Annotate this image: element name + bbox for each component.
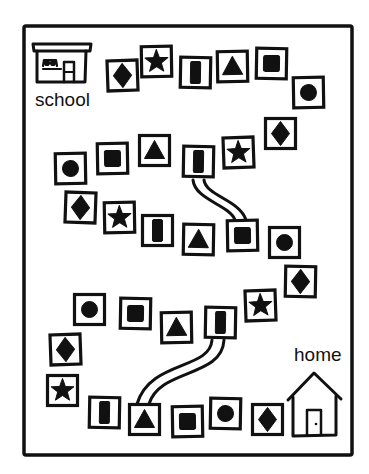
school-building-icon — [33, 44, 91, 82]
rect-icon — [99, 401, 109, 423]
home-label: home — [294, 344, 342, 366]
board-space-17[interactable] — [227, 220, 258, 251]
board-space-14[interactable] — [104, 202, 135, 233]
board-space-11[interactable] — [97, 143, 128, 174]
square-icon — [104, 150, 120, 166]
shortcut-path-2 — [137, 340, 212, 404]
board-space-16[interactable] — [183, 224, 214, 255]
circle-icon — [217, 405, 233, 421]
board-space-23[interactable] — [120, 298, 151, 329]
board-space-7[interactable] — [266, 119, 296, 149]
square-icon — [127, 305, 143, 321]
circle-icon — [300, 84, 316, 100]
shortcut-path-2 — [149, 340, 224, 404]
board-space-20[interactable] — [245, 290, 276, 321]
board-space-26[interactable] — [48, 376, 78, 406]
circle-icon — [82, 302, 98, 318]
rect-icon — [153, 220, 163, 242]
board-space-15[interactable] — [143, 216, 173, 246]
square-icon — [263, 55, 279, 71]
circle-icon — [62, 160, 78, 176]
board-space-4[interactable] — [217, 51, 248, 82]
circle-icon — [277, 235, 293, 251]
rect-icon — [190, 61, 200, 83]
board-space-12[interactable] — [55, 153, 86, 184]
square-icon — [234, 227, 250, 243]
board-space-22[interactable] — [161, 312, 192, 343]
rect-icon — [215, 311, 225, 333]
board-space-10[interactable] — [140, 136, 170, 166]
board-space-1[interactable] — [107, 60, 138, 91]
rect-icon — [193, 150, 203, 172]
board-space-25[interactable] — [50, 334, 81, 365]
school-label: school — [35, 89, 90, 111]
board-space-3[interactable] — [180, 57, 211, 88]
board-space-24[interactable] — [75, 295, 105, 325]
shortcut-paths — [137, 180, 246, 404]
board-space-27[interactable] — [89, 397, 120, 428]
board-game — [0, 0, 369, 474]
home-house-icon — [288, 373, 341, 436]
board-space-5[interactable] — [256, 48, 287, 79]
board-space-29[interactable] — [172, 406, 203, 437]
board-space-30[interactable] — [210, 398, 241, 429]
board-space-31[interactable] — [253, 405, 283, 435]
board-space-18[interactable] — [270, 228, 300, 258]
board-space-19[interactable] — [285, 266, 316, 297]
board-space-13[interactable] — [65, 192, 96, 223]
board-space-9[interactable] — [183, 146, 214, 177]
square-icon — [179, 413, 195, 429]
board-space-28[interactable] — [130, 405, 160, 435]
board-space-6[interactable] — [293, 77, 324, 108]
board-space-8[interactable] — [223, 137, 254, 168]
board-space-21[interactable] — [205, 307, 236, 338]
board-space-2[interactable] — [141, 46, 172, 77]
